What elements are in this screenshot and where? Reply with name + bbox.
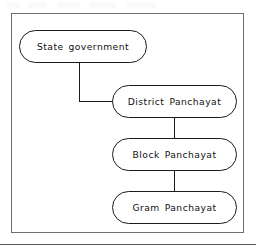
node-gram-panchayat-label: Gram Panchayat [132,203,216,212]
node-state-government: State government [19,30,147,63]
node-block-panchayat-label: Block Panchayat [133,150,217,159]
scan-artifact [6,2,156,8]
connector-state-to-district-horizontal [79,101,113,102]
connector-state-to-district-vertical [79,62,80,102]
page-separator-rule [0,244,256,245]
figure-canvas: State government District Panchayat Bloc… [0,0,256,251]
connector-district-to-block [174,117,175,139]
node-block-panchayat: Block Panchayat [112,138,237,171]
node-gram-panchayat: Gram Panchayat [112,191,237,224]
node-state-government-label: State government [37,42,129,51]
node-district-panchayat: District Panchayat [112,85,237,118]
connector-block-to-gram [174,170,175,192]
node-district-panchayat-label: District Panchayat [128,97,221,106]
